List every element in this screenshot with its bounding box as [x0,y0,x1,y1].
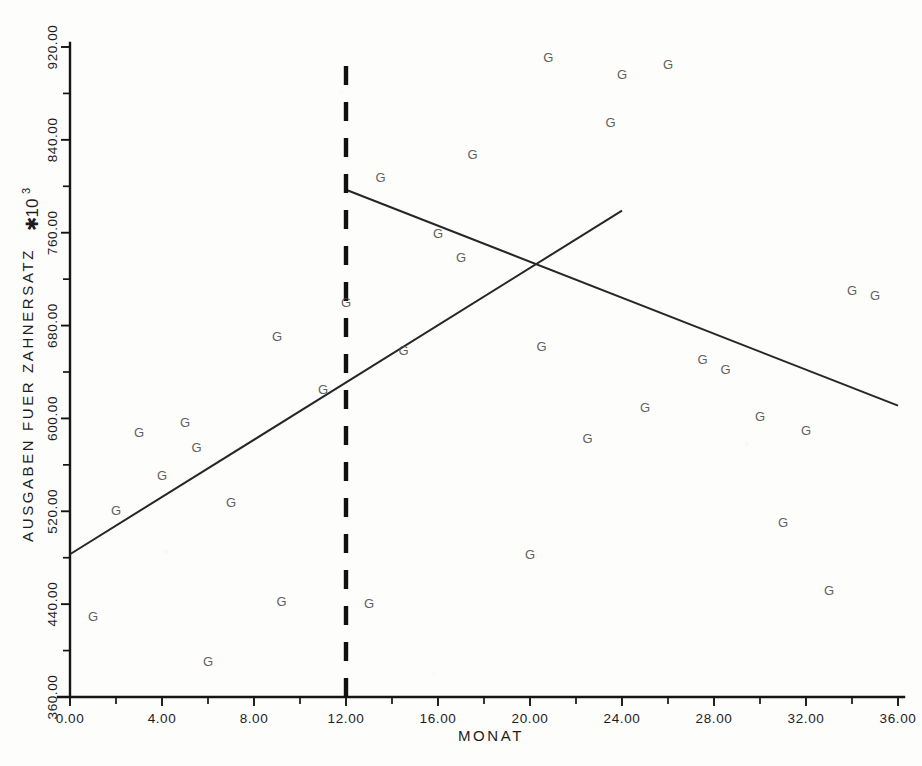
data-point-marker: G [870,288,880,303]
data-point-marker: G [456,250,466,265]
data-point-marker: G [525,547,535,562]
y-axis-multiplier-base: ✱10 [23,199,42,232]
data-point-marker: G [801,423,811,438]
axes-group [58,43,904,697]
x-tick-label: 4.00 [148,711,177,726]
x-axis-title: MONAT [458,727,524,744]
trend-lines-group [70,190,898,554]
data-point-marker: G [605,115,615,130]
x-tick-label: 24.00 [604,711,641,726]
y-tick-label: 840.00 [45,117,60,162]
data-points-group: GGGGGGGGGGGGGGGGGGGGGGGGGGGGGGGGGG [88,50,880,669]
data-point-marker: G [433,226,443,241]
data-point-marker: G [364,596,374,611]
data-point-marker: G [111,503,121,518]
x-tick-label: 0.00 [56,711,85,726]
y-axis-multiplier: ✱10 3 [20,188,42,232]
data-point-marker: G [847,283,857,298]
y-axis-ticks [61,47,70,697]
data-point-marker: G [88,609,98,624]
x-tick-label: 8.00 [240,711,269,726]
y-tick-label: 760.00 [45,210,60,255]
data-point-marker: G [755,409,765,424]
x-tick-label: 20.00 [512,711,549,726]
x-tick-label: 12.00 [328,711,365,726]
data-point-marker: G [191,440,201,455]
y-tick-label: 520.00 [45,489,60,534]
chart-page: 360.00440.00520.00600.00680.00760.00840.… [0,0,922,766]
data-point-marker: G [157,468,167,483]
y-tick-label: 600.00 [45,396,60,441]
y-tick-label: 440.00 [45,582,60,627]
data-point-marker: G [180,415,190,430]
y-tick-label: 920.00 [45,25,60,70]
data-point-marker: G [226,495,236,510]
data-point-marker: G [318,382,328,397]
data-point-marker: G [203,654,213,669]
data-point-marker: G [467,147,477,162]
x-axis-ticks [70,697,898,706]
data-point-marker: G [640,400,650,415]
data-point-marker: G [272,329,282,344]
data-point-marker: G [398,343,408,358]
x-tick-label: 32.00 [788,711,825,726]
data-point-marker: G [697,352,707,367]
x-tick-label: 28.00 [696,711,733,726]
y-axis-tick-labels: 360.00440.00520.00600.00680.00760.00840.… [45,25,60,720]
trend-line-post-intervention-trend [346,190,898,406]
data-point-marker: G [720,362,730,377]
data-point-marker: G [134,425,144,440]
data-point-marker: G [582,431,592,446]
x-tick-label: 16.00 [420,711,457,726]
data-point-marker: G [617,67,627,82]
data-point-marker: G [778,515,788,530]
y-axis-multiplier-exponent: 3 [20,188,32,194]
data-point-marker: G [543,50,553,65]
data-point-marker: G [824,583,834,598]
x-tick-label: 36.00 [880,711,917,726]
y-axis-title: AUSGABEN FUER ZAHNERSATZ [19,248,36,542]
scatter-plot: 360.00440.00520.00600.00680.00760.00840.… [0,0,922,766]
data-point-marker: G [663,57,673,72]
y-tick-label: 680.00 [45,303,60,348]
x-axis-tick-labels: 0.004.008.0012.0016.0020.0024.0028.0032.… [56,711,917,726]
data-point-marker: G [341,295,351,310]
data-point-marker: G [375,170,385,185]
data-point-marker: G [536,339,546,354]
data-point-marker: G [277,594,287,609]
